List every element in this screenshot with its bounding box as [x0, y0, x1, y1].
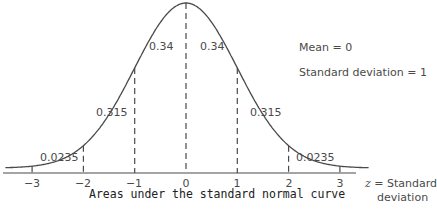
- area-label-1-2: 0.315: [250, 107, 282, 118]
- z-axis-label-line2: deviation: [377, 192, 428, 203]
- figure-caption: Areas under the standard normal curve: [89, 189, 345, 201]
- sd-dividers: [32, 3, 340, 173]
- bell-curve: [5, 3, 368, 168]
- area-label-neg1-0: 0.34: [149, 41, 174, 52]
- z-axis-label: z = Standard: [365, 178, 437, 189]
- area-label-neg3-neg2: 0.0235: [40, 152, 79, 163]
- legend-mean: Mean = 0: [299, 42, 352, 53]
- legend-standard-deviation: Standard deviation = 1: [299, 67, 427, 78]
- z-equals-standard: = Standard: [371, 177, 437, 190]
- area-label-0-1: 0.34: [200, 41, 225, 52]
- area-label-neg2-neg1: 0.315: [96, 107, 128, 118]
- tick-label-neg3: −3: [24, 178, 40, 189]
- area-label-2-3: 0.0235: [296, 152, 335, 163]
